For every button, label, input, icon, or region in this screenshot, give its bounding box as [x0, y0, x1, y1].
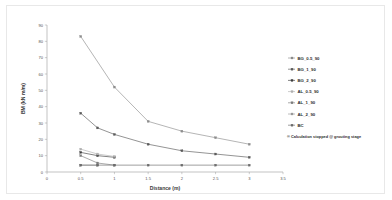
chart-figure: 0102030405060708090 00.511.522.533.5 Dis…: [0, 0, 392, 200]
y-tick-label: 10: [38, 153, 43, 158]
legend-item-BG_2_90[interactable]: BG_2_90: [288, 78, 317, 83]
legend-item-label: BG_2_90: [298, 78, 317, 83]
chart-legend: BG_0.5_90BG_1_90BG_2_90AL_0.5_90AL_1_90A…: [287, 56, 362, 139]
data-point-marker: [215, 153, 217, 155]
x-tick-label: 2.5: [213, 176, 219, 181]
data-point-marker: [215, 164, 217, 166]
y-tick-label: 0: [41, 170, 44, 175]
legend-swatch-marker: [291, 91, 293, 93]
data-point-marker: [181, 164, 183, 166]
x-axis-title: Distance (m): [150, 185, 181, 191]
legend-item-label: AL_0.5_90: [298, 89, 320, 94]
legend-swatch-marker: [291, 68, 293, 70]
legend-swatch-marker: [291, 57, 293, 59]
data-point-marker: [80, 164, 82, 166]
x-tick-label: 3: [248, 176, 251, 181]
legend-item-BC[interactable]: BC: [288, 123, 304, 128]
x-tick-label: 2: [181, 176, 184, 181]
series-BG_0.5_90: [80, 35, 251, 145]
y-tick-label: 60: [38, 72, 43, 77]
data-point-marker: [181, 130, 183, 132]
data-point-marker: [80, 148, 82, 150]
data-point-marker: [80, 35, 82, 37]
data-point-marker: [147, 164, 149, 166]
y-tick-label: 80: [38, 39, 43, 44]
data-point-marker: [97, 153, 99, 155]
data-point-marker: [80, 155, 82, 157]
legend-item-AL_2_90[interactable]: AL_2_90: [288, 112, 316, 117]
legend-swatch-marker: [291, 79, 293, 81]
data-point-marker: [147, 120, 149, 122]
series-line: [81, 36, 250, 144]
series-line: [81, 113, 250, 157]
legend-footnote: ® Calculation stopped @ grouting stage: [287, 134, 362, 139]
legend-item-label: AL_1_90: [298, 100, 316, 105]
legend-item-BG_1_90[interactable]: BG_1_90: [288, 67, 317, 72]
x-tick-label: 0.5: [78, 176, 84, 181]
x-tick-label: 1.5: [145, 176, 151, 181]
legend-item-AL_1_90[interactable]: AL_1_90: [288, 100, 316, 105]
data-point-marker: [147, 143, 149, 145]
y-axis-ticks: 0102030405060708090: [38, 23, 47, 175]
x-tick-label: 1: [113, 176, 116, 181]
data-point-marker: [248, 143, 250, 145]
x-axis-ticks: 00.511.522.533.5: [46, 172, 287, 181]
legend-item-label: BG_1_90: [298, 67, 317, 72]
data-point-marker: [97, 162, 99, 164]
x-tick-label: 3.5: [280, 176, 286, 181]
series-BG_1_90: [80, 112, 251, 158]
legend-item-label: BC: [298, 123, 304, 128]
legend-swatch-marker: [291, 124, 293, 126]
y-tick-label: 40: [38, 104, 43, 109]
y-tick-label: 30: [38, 121, 43, 126]
y-tick-label: 90: [38, 23, 43, 28]
data-series-layer: [80, 35, 251, 166]
data-point-marker: [80, 112, 82, 114]
data-point-marker: [97, 127, 99, 129]
series-BC: [80, 164, 251, 166]
data-point-marker: [113, 86, 115, 88]
legend-swatch-marker: [291, 102, 293, 104]
legend-item-BG_0.5_90[interactable]: BG_0.5_90: [288, 56, 320, 61]
y-tick-label: 50: [38, 88, 43, 93]
data-point-marker: [215, 137, 217, 139]
line-chart-canvas: 0102030405060708090 00.511.522.533.5 Dis…: [0, 0, 392, 200]
data-point-marker: [248, 156, 250, 158]
data-point-marker: [97, 164, 99, 166]
data-point-marker: [113, 155, 115, 157]
data-point-marker: [181, 150, 183, 152]
data-point-marker: [248, 164, 250, 166]
data-point-marker: [113, 133, 115, 135]
y-axis-title: BM (kN m/m): [20, 83, 26, 114]
legend-item-label: BG_0.5_90: [298, 56, 321, 61]
data-point-marker: [80, 151, 82, 153]
data-point-marker: [113, 164, 115, 166]
y-tick-label: 70: [38, 55, 43, 60]
legend-item-AL_0.5_90[interactable]: AL_0.5_90: [288, 89, 319, 94]
x-tick-label: 0: [46, 176, 49, 181]
legend-item-label: AL_2_90: [298, 112, 316, 117]
y-tick-label: 20: [38, 137, 43, 142]
legend-swatch-marker: [291, 113, 293, 115]
